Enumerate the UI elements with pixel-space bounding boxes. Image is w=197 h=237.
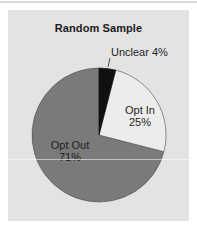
label-unclear-text: Unclear 4% xyxy=(111,46,168,58)
scan-artifact-line xyxy=(0,159,197,160)
label-opt-out-name: Opt Out xyxy=(48,139,92,151)
label-opt-out-value: 71% xyxy=(48,151,92,163)
label-unclear: Unclear 4% xyxy=(111,46,168,58)
label-opt-in-name: Opt In xyxy=(118,104,162,116)
pie-chart xyxy=(0,0,197,237)
unclear-leader-line xyxy=(108,58,110,67)
label-opt-in: Opt In 25% xyxy=(118,104,162,128)
label-opt-in-value: 25% xyxy=(118,116,162,128)
